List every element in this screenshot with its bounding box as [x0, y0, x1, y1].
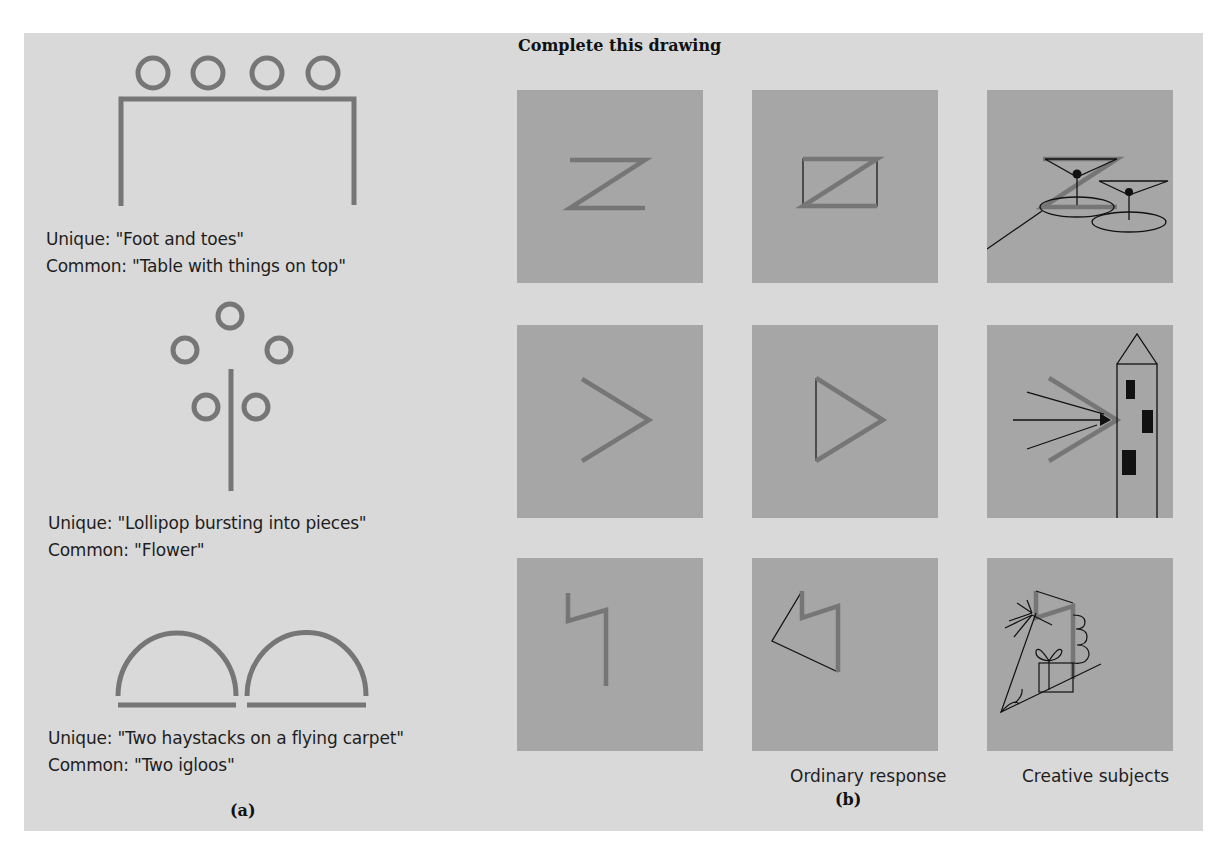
- table-with-circles-figure: [110, 48, 370, 208]
- figure3-unique: Unique: "Two haystacks on a flying carpe…: [48, 725, 404, 752]
- two-domes-figure: [110, 630, 380, 740]
- column-label-creative: Creative subjects: [1022, 766, 1169, 786]
- panel-a-label: (a): [230, 801, 256, 820]
- figure1-common: Common: "Table with things on top": [46, 253, 346, 280]
- tile-stimulus-step: [517, 558, 703, 751]
- figure3-common: Common: "Two igloos": [48, 752, 404, 779]
- tile-stimulus-angle: [517, 325, 703, 518]
- figure3-caption: Unique: "Two haystacks on a flying carpe…: [48, 725, 404, 779]
- figure1-caption: Unique: "Foot and toes" Common: "Table w…: [46, 226, 346, 280]
- figure2-caption: Unique: "Lollipop bursting into pieces" …: [48, 510, 366, 564]
- tile-creative-plant: [987, 558, 1173, 751]
- figure1-unique: Unique: "Foot and toes": [46, 226, 346, 253]
- tile-ordinary-triangle: [752, 325, 938, 518]
- tile-stimulus-z: [517, 90, 703, 283]
- tile-ordinary-pentagon: [752, 558, 938, 751]
- tile-creative-martini: [987, 90, 1173, 283]
- tile-ordinary-rectangle: [752, 90, 938, 283]
- column-label-ordinary: Ordinary response: [790, 766, 946, 786]
- figure2-common: Common: "Flower": [48, 537, 366, 564]
- tile-creative-tower: [987, 325, 1173, 518]
- figure2-unique: Unique: "Lollipop bursting into pieces": [48, 510, 366, 537]
- panel-b-label: (b): [835, 790, 861, 809]
- panel-b-title: Complete this drawing: [518, 36, 721, 55]
- flower-circles-figure: [160, 295, 300, 495]
